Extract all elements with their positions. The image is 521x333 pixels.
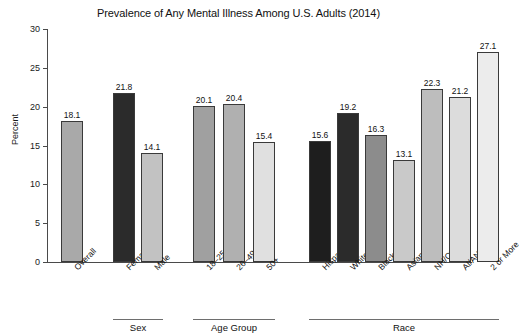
group-label: Age Group — [211, 322, 257, 333]
bar-value-label: 20.1 — [196, 95, 213, 105]
bar: 22.3NH/OPI* — [421, 89, 443, 262]
y-tick-mark — [43, 184, 47, 185]
y-tick-label: 30 — [30, 24, 40, 34]
group-label: Sex — [130, 322, 146, 333]
y-tick-label: 25 — [30, 63, 40, 73]
x-tick-label: Overall — [72, 246, 98, 272]
bar: 21.8Female — [113, 93, 135, 262]
bar-value-label: 15.6 — [312, 130, 329, 140]
bar-value-label: 22.3 — [424, 78, 441, 88]
x-tick-label: Male — [152, 252, 172, 272]
plot-area: 051015202530 18.1Overall21.8Female14.1Ma… — [47, 29, 476, 262]
bar-value-label: 18.1 — [64, 110, 81, 120]
y-tick-label: 10 — [30, 179, 40, 189]
y-tick-label: 15 — [30, 141, 40, 151]
y-tick-mark — [43, 107, 47, 108]
bar: 16.3Black — [365, 135, 387, 262]
y-axis-title: Percent — [10, 114, 20, 145]
bar: 15.6Hispanic — [309, 141, 331, 262]
bar-value-label: 14.1 — [144, 142, 161, 152]
y-tick-mark — [43, 146, 47, 147]
group-bracket — [113, 319, 163, 320]
x-tick-label: 2 or More — [488, 239, 521, 272]
bar-value-label: 21.2 — [452, 86, 469, 96]
y-tick-mark — [43, 223, 47, 224]
y-tick-mark — [43, 29, 47, 30]
bar: 13.1Asian — [393, 160, 415, 262]
y-tick-label: 0 — [35, 257, 40, 267]
chart-title: Prevalence of Any Mental Illness Among U… — [0, 7, 477, 19]
group-label: Race — [393, 322, 415, 333]
bar-value-label: 27.1 — [480, 41, 497, 51]
y-tick-label: 5 — [35, 218, 40, 228]
bar-value-label: 20.4 — [226, 93, 243, 103]
bar-value-label: 21.8 — [116, 82, 133, 92]
y-tick-label: 20 — [30, 102, 40, 112]
bar: 18.1Overall — [61, 121, 83, 262]
group-bracket — [193, 319, 275, 320]
y-tick-mark — [43, 262, 47, 263]
bar: 20.118–25 — [193, 106, 215, 262]
bar-value-label: 16.3 — [368, 124, 385, 134]
y-axis-line — [47, 29, 48, 262]
y-tick-mark — [43, 68, 47, 69]
bar: 14.1Male — [141, 153, 163, 263]
bar: 19.2White — [337, 113, 359, 262]
bar-value-label: 19.2 — [340, 102, 357, 112]
bar-value-label: 13.1 — [396, 149, 413, 159]
bar: 20.426–49 — [223, 104, 245, 262]
x-tick-label: 50+ — [264, 255, 281, 272]
bar: 27.12 or More — [477, 52, 499, 262]
group-bracket — [309, 319, 499, 320]
bar: 21.2AI/AN** — [449, 97, 471, 262]
bar-value-label: 15.4 — [256, 131, 273, 141]
bar: 15.450+ — [253, 142, 275, 262]
